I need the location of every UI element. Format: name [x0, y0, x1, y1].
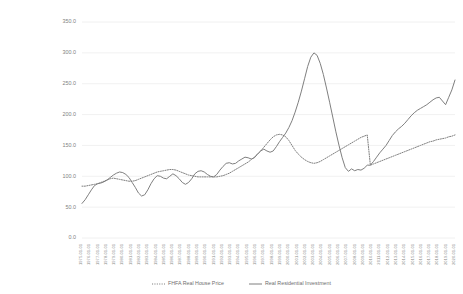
chart-legend: FHFA Real House PriceReal Residential In…	[152, 280, 331, 286]
x-axis-tick-label: 2015-01-01	[410, 243, 415, 265]
y-axis-tick-label: 250.0	[63, 80, 77, 86]
x-axis-tick-label: 2006-01-01	[335, 243, 340, 265]
legend-item-label: Real Residential Investment	[265, 280, 331, 286]
x-axis-tick-label: 1983-01-01	[144, 243, 149, 265]
x-axis-tick-label: 1981-01-01	[128, 243, 133, 265]
x-axis-tick-label: 1992-01-01	[219, 243, 224, 265]
x-axis-tick-label: 2000-01-01	[285, 243, 290, 265]
x-axis-tick-label: 1980-01-01	[119, 243, 124, 265]
x-axis-tick-label: 2017-01-01	[426, 243, 431, 265]
x-axis-tick-label: 1995-01-01	[244, 243, 249, 265]
x-axis-tick-label: 1975-01-01	[78, 243, 83, 265]
x-axis-tick-label: 2009-01-01	[360, 243, 365, 265]
x-axis-tick-label: 1979-01-01	[111, 243, 116, 265]
y-axis-tick-label: 0.0	[69, 234, 77, 240]
x-axis-tick-labels: 1975-01-011976-01-011977-01-011978-01-01…	[78, 243, 456, 265]
x-axis-tick-label: 1993-01-01	[227, 243, 232, 265]
x-axis-tick-label: 1998-01-01	[269, 243, 274, 265]
series-layer	[82, 53, 455, 204]
x-axis-tick-label: 1977-01-01	[95, 243, 100, 265]
x-axis-tick-label: 1991-01-01	[211, 243, 216, 265]
line-chart: 0.050.0100.0150.0200.0250.0300.0350.0 19…	[0, 0, 463, 294]
legend-item-label: FHFA Real House Price	[168, 280, 224, 286]
y-axis-tick-label: 300.0	[63, 49, 77, 55]
x-axis-tick-label: 2003-01-01	[310, 243, 315, 265]
chart-container: 0.050.0100.0150.0200.0250.0300.0350.0 19…	[0, 0, 463, 294]
x-axis-tick-label: 1997-01-01	[260, 243, 265, 265]
series-fhfa-real-house-price	[82, 134, 455, 186]
y-axis-tick-label: 350.0	[63, 18, 77, 24]
x-axis-tick-label: 1990-01-01	[202, 243, 207, 265]
x-axis-tick-label: 2011-01-01	[376, 243, 381, 264]
y-axis-tick-label: 150.0	[63, 142, 77, 148]
series-real-residential-investment	[82, 53, 455, 204]
x-axis-tick-label: 1984-01-01	[153, 243, 158, 265]
x-axis-tick-label: 2005-01-01	[327, 243, 332, 265]
x-axis-tick-label: 1996-01-01	[252, 243, 257, 265]
x-axis-tick-label: 2016-01-01	[418, 243, 423, 265]
y-axis-tick-labels: 0.050.0100.0150.0200.0250.0300.0350.0	[63, 18, 77, 240]
x-axis-tick-label: 2012-01-01	[385, 243, 390, 265]
y-axis-tick-label: 50.0	[66, 204, 77, 210]
x-axis-tick-label: 2014-01-01	[401, 243, 406, 265]
x-axis-tick-label: 1986-01-01	[169, 243, 174, 265]
x-axis-tick-label: 2002-01-01	[302, 243, 307, 265]
x-axis-tick-label: 2020-01-01	[451, 243, 456, 265]
y-axis-tick-label: 200.0	[63, 111, 77, 117]
x-axis-tick-label: 2010-01-01	[368, 243, 373, 265]
x-axis-tick-label: 1982-01-01	[136, 243, 141, 265]
gridlines	[82, 22, 455, 238]
x-axis-tick-label: 2019-01-01	[443, 243, 448, 265]
x-axis-tick-label: 1978-01-01	[103, 243, 108, 265]
x-axis-tick-label: 2008-01-01	[352, 243, 357, 265]
x-axis-tick-label: 1994-01-01	[235, 243, 240, 265]
x-axis-tick-label: 2013-01-01	[393, 243, 398, 265]
x-axis-tick-label: 1976-01-01	[86, 243, 91, 265]
y-axis-tick-label: 100.0	[63, 173, 77, 179]
x-axis-tick-label: 1985-01-01	[161, 243, 166, 265]
x-axis-tick-label: 1999-01-01	[277, 243, 282, 265]
x-axis-tick-label: 2001-01-01	[294, 243, 299, 265]
x-axis-tick-label: 1989-01-01	[194, 243, 199, 265]
x-axis-tick-label: 1988-01-01	[186, 243, 191, 265]
x-axis-tick-label: 2004-01-01	[318, 243, 323, 265]
x-axis-tick-label: 1987-01-01	[177, 243, 182, 265]
x-axis-tick-label: 2018-01-01	[434, 243, 439, 265]
x-axis-tick-label: 2007-01-01	[343, 243, 348, 265]
